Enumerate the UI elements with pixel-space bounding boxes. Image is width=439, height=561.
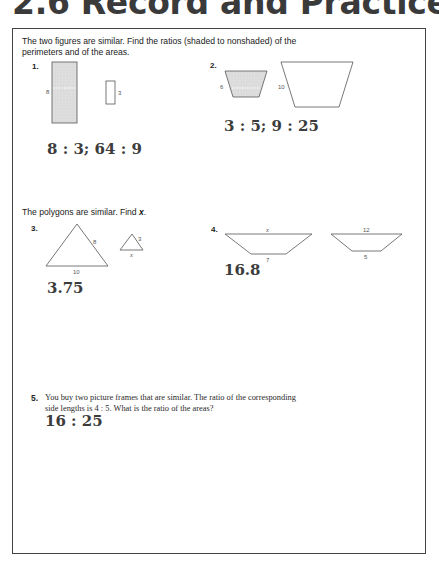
second-trapezoid [331,234,402,251]
problem-4-figures: x 7 12 5 [0,0,439,561]
problem-5-answer: 16 : 25 [45,412,103,430]
problem-5-text-line1: You buy two picture frames that are simi… [45,392,296,403]
problem-4-second-top: 12 [363,227,370,233]
problem-4-first-top: x [265,226,269,233]
problem-4-first-bottom: 7 [266,257,270,263]
problem-4-second-bottom: 5 [364,254,368,260]
problem-5-text: You buy two picture frames that are simi… [45,392,296,414]
first-trapezoid [225,234,312,254]
problem-4-answer: 16.8 [224,261,261,279]
problem-5-label: 5. [31,393,38,403]
